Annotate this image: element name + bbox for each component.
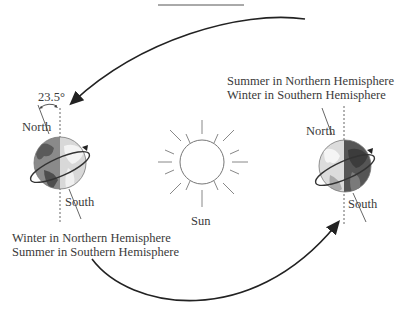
sun-icon bbox=[158, 120, 248, 207]
right-south-label: South bbox=[348, 197, 377, 211]
left-south-label: South bbox=[65, 195, 94, 209]
left-season-line2: Summer in Southern Hemisphere bbox=[12, 245, 179, 259]
sun-label: Sun bbox=[191, 214, 210, 228]
tilt-angle-label: 23.5° bbox=[38, 90, 65, 104]
right-north-label: North bbox=[306, 124, 335, 138]
right-season-line2: Winter in Southern Hemisphere bbox=[227, 88, 386, 102]
left-season-line1: Winter in Northern Hemisphere bbox=[12, 231, 171, 245]
seasons-diagram bbox=[0, 0, 403, 321]
right-season-line1: Summer in Northern Hemisphere bbox=[227, 74, 394, 88]
left-north-label: North bbox=[22, 120, 51, 134]
